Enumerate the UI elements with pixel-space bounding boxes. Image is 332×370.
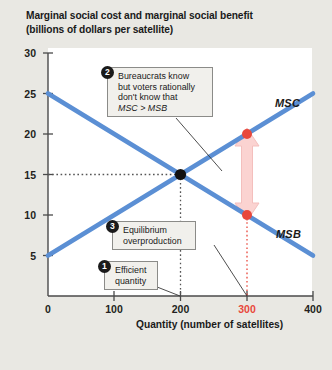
callout-2-badge: 2 (101, 66, 114, 79)
callout-2-line-2: but voters rationally (118, 82, 208, 93)
y-tick-label-10: 10 (10, 209, 36, 221)
callout-1-badge: 1 (98, 260, 111, 273)
figure-container: Marginal social cost and marginal social… (0, 0, 332, 370)
y-tick-label-25: 25 (10, 88, 36, 100)
callout-3-line-2: overproduction (123, 236, 191, 247)
point-msb-at-overproduction (242, 210, 252, 220)
callout-efficient-quantity: Efficient quantity (104, 261, 158, 290)
callout-3-leader (214, 245, 247, 296)
callout-2-line-4: MSC > MSB (118, 103, 208, 114)
point-msc-at-overproduction (242, 129, 252, 139)
x-tick-label-400: 400 (293, 303, 332, 315)
point-efficient-equilibrium (175, 169, 186, 180)
x-tick-label-100: 100 (94, 303, 134, 315)
x-tick-label-0: 0 (28, 303, 68, 315)
callout-2-line-1: Bureaucrats know (118, 71, 208, 82)
callout-3-badge: 3 (106, 220, 119, 233)
y-tick-label-20: 20 (10, 128, 36, 140)
callout-equilibrium-overproduction: Equilibrium overproduction (112, 221, 196, 250)
y-tick-label-15: 15 (10, 169, 36, 181)
callout-bureaucrats-know: Bureaucrats know but voters rationally d… (107, 67, 213, 117)
callout-1-line-1: Efficient (115, 265, 153, 276)
msc-curve-label: MSC (275, 97, 300, 109)
x-tick-label-300: 300 (227, 303, 267, 315)
overproduction-gap-arrow (235, 128, 259, 221)
callout-3-line-1: Equilibrium (123, 225, 191, 236)
msb-curve-label: MSB (276, 228, 301, 240)
x-axis-title: Quantity (number of satellites) (136, 319, 283, 330)
y-tick-label-5: 5 (10, 250, 36, 262)
callout-1-line-2: quantity (115, 276, 153, 287)
callout-2-line-3: don't know that (118, 92, 208, 103)
y-tick-label-30: 30 (10, 47, 36, 59)
x-tick-label-200: 200 (161, 303, 201, 315)
